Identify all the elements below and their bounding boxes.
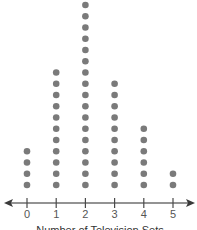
- dot-column-0: [24, 148, 31, 188]
- data-dot: [141, 125, 148, 132]
- data-dot: [111, 148, 118, 155]
- data-dot: [82, 114, 89, 121]
- dot-column-5: [170, 170, 177, 188]
- x-tick-label: 3: [112, 208, 118, 220]
- data-dot: [53, 80, 60, 87]
- data-dot: [82, 2, 89, 9]
- x-tick-label: 1: [53, 208, 59, 220]
- dot-column-2: [82, 2, 89, 189]
- data-dot: [82, 103, 89, 110]
- data-dot: [82, 137, 89, 144]
- x-tick-label: 2: [82, 208, 88, 220]
- x-axis-title: Number of Television Sets: [36, 224, 164, 230]
- data-dot: [111, 137, 118, 144]
- x-tick-label: 4: [141, 208, 147, 220]
- x-tick-label: 0: [24, 208, 30, 220]
- x-axis: 012345: [4, 198, 195, 220]
- data-dot: [82, 24, 89, 31]
- data-dot: [82, 13, 89, 20]
- dot-column-4: [141, 125, 148, 188]
- dot-plot: 012345 Number of Television Sets: [0, 0, 197, 230]
- data-dot: [141, 170, 148, 177]
- data-dot: [82, 47, 89, 54]
- data-dot: [53, 170, 60, 177]
- data-dot: [53, 125, 60, 132]
- data-dot: [82, 159, 89, 166]
- data-dot: [82, 182, 89, 189]
- data-dot: [111, 80, 118, 87]
- data-dot: [24, 170, 31, 177]
- data-dot: [53, 69, 60, 76]
- data-dot: [170, 170, 177, 177]
- data-dot: [111, 170, 118, 177]
- data-dot: [82, 148, 89, 155]
- data-dot: [111, 182, 118, 189]
- dot-column-3: [111, 80, 118, 188]
- data-dot: [111, 92, 118, 99]
- data-dot: [53, 182, 60, 189]
- data-dot: [141, 182, 148, 189]
- x-tick-label: 5: [170, 208, 176, 220]
- data-dot: [53, 159, 60, 166]
- data-dot: [24, 148, 31, 155]
- data-dot: [24, 182, 31, 189]
- data-dot: [82, 92, 89, 99]
- data-dot: [111, 159, 118, 166]
- data-dot: [24, 159, 31, 166]
- data-dot: [53, 148, 60, 155]
- data-dot: [111, 103, 118, 110]
- dot-column-1: [53, 69, 60, 188]
- data-dot: [82, 125, 89, 132]
- data-dot: [82, 80, 89, 87]
- x-axis-ticks: 012345: [24, 198, 176, 220]
- data-dot: [141, 148, 148, 155]
- data-dot: [111, 114, 118, 121]
- data-dot: [53, 92, 60, 99]
- dot-plot-data-points: [24, 2, 177, 189]
- data-dot: [53, 103, 60, 110]
- data-dot: [170, 182, 177, 189]
- data-dot: [53, 114, 60, 121]
- data-dot: [82, 35, 89, 42]
- data-dot: [141, 137, 148, 144]
- data-dot: [82, 58, 89, 65]
- data-dot: [53, 137, 60, 144]
- data-dot: [111, 125, 118, 132]
- data-dot: [141, 159, 148, 166]
- data-dot: [82, 69, 89, 76]
- data-dot: [82, 170, 89, 177]
